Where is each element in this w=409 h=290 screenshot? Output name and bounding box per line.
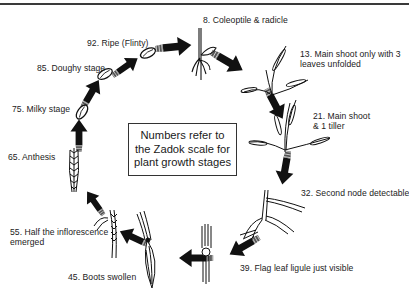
three-leaf-shoot-icon <box>241 46 308 95</box>
stage-32-label: 32. Second node detectable <box>301 189 409 199</box>
milky-grain-icon <box>74 103 90 121</box>
stage-13-label: 13. Main shoot only with 3 leaves unfold… <box>300 50 401 69</box>
arrow-92-to-8 <box>154 36 192 59</box>
arrow-65-to-75 <box>71 120 88 152</box>
arrow-8-to-13 <box>207 44 248 79</box>
flag-leaf-ligule-icon <box>202 224 211 284</box>
note-line-2: the Zadok scale for <box>134 143 231 157</box>
note-line-1: Numbers refer to <box>134 129 231 143</box>
stage-45-label: 45. Boots swollen <box>68 273 136 283</box>
stage-65-label: 65. Anthesis <box>8 153 55 163</box>
stage-55-label: 55. Half the inflorescence emerged <box>10 228 108 247</box>
swollen-boot-icon <box>137 211 155 288</box>
arrow-32-to-39 <box>225 230 264 263</box>
arrow-75-to-85 <box>75 76 106 112</box>
arrow-85-to-92 <box>108 52 142 83</box>
arrow-21-to-32 <box>273 149 297 186</box>
zadok-note-box: Numbers refer to the Zadok scale for pla… <box>128 123 237 176</box>
stage-21-label: 21. Main shoot & 1 tiller <box>313 112 370 131</box>
stage-85-label: 85. Doughy stage <box>37 64 105 74</box>
stage-92-label: 92. Ripe (Flinty) <box>87 39 149 49</box>
flowering-ear-icon <box>69 148 78 192</box>
stage-8-label: 8. Coleoptile & radicle <box>203 16 288 26</box>
zadok-note-text: Numbers refer to the Zadok scale for pla… <box>134 129 231 170</box>
stage-21-label-line-2: & 1 tiller <box>313 122 370 132</box>
stage-13-label-line-2: leaves unfolded <box>300 60 401 70</box>
note-line-3: plant growth stages <box>134 156 231 170</box>
arrow-55-to-65 <box>81 187 110 219</box>
stage-75-label: 75. Milky stage <box>12 105 70 115</box>
stage-55-label-line-2: emerged <box>10 238 108 248</box>
stage-39-label: 39. Flag leaf ligule just visible <box>240 264 353 274</box>
node-stem-icon <box>240 190 305 246</box>
